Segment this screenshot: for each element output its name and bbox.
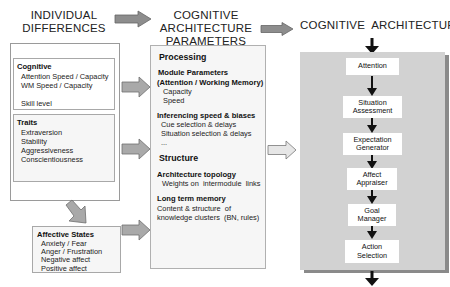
cognitive-item: Attention Speed / Capacity bbox=[17, 72, 114, 81]
module-affect-appraiser: Affect Appraiser bbox=[347, 168, 397, 190]
inferencing-item: Situation selection & delays bbox=[159, 129, 265, 138]
module-label: Selection bbox=[357, 252, 387, 261]
inferencing-item: Cue selection & delays bbox=[159, 120, 265, 129]
heading-cognitive-architecture: COGNITIVE ARCHITECTURE bbox=[300, 19, 450, 32]
arrow-right-icon bbox=[121, 76, 151, 98]
long-term-memory-title: Long term memory bbox=[157, 194, 265, 204]
flow-arrow-down-icon bbox=[364, 271, 380, 287]
module-goal-manager: Goal Manager bbox=[348, 204, 396, 226]
flow-arrow-down-icon bbox=[367, 226, 377, 239]
module-expectation-generator: Expectation Generator bbox=[343, 133, 402, 155]
module-label: Appraiser bbox=[356, 179, 387, 188]
long-term-memory-item: knowledge clusters (BN, rules) bbox=[157, 213, 265, 222]
module-label: Manager bbox=[358, 215, 387, 224]
inferencing-title: Inferencing speed & biases bbox=[157, 111, 265, 121]
heading-line: ARCHITECTURE bbox=[156, 22, 256, 35]
module-parameter-item: Speed bbox=[159, 96, 265, 105]
arrow-right-icon bbox=[267, 140, 297, 160]
cognitive-spacer bbox=[17, 90, 114, 99]
affective-item: Positive affect bbox=[37, 265, 120, 273]
inferencing-item: ... bbox=[159, 139, 265, 146]
architecture-topology-item: Weights on intermodule links bbox=[159, 179, 265, 188]
module-action-selection: Action Selection bbox=[345, 240, 399, 263]
heading-line: DIFFERENCES bbox=[18, 22, 110, 35]
cognitive-box: Cognitive Attention Speed / Capacity WM … bbox=[13, 58, 115, 110]
module-situation-assessment: Situation Assessment bbox=[343, 96, 402, 118]
flow-arrow-down-icon bbox=[367, 155, 377, 169]
flow-arrow-down-icon bbox=[367, 190, 377, 204]
long-term-memory-item: Content & structure of bbox=[157, 204, 265, 213]
cognitive-item: WM Speed / Capacity bbox=[17, 81, 114, 90]
module-label: Assessment bbox=[353, 107, 393, 116]
traits-item: Stability bbox=[17, 137, 114, 146]
traits-item: Conscientiousness bbox=[17, 155, 114, 164]
heading-cognitive-architecture-parameters: COGNITIVE ARCHITECTURE PARAMETERS bbox=[156, 9, 256, 48]
module-label: Generator bbox=[356, 144, 389, 153]
module-label: Attention bbox=[358, 62, 387, 71]
arrow-down-icon bbox=[64, 199, 88, 225]
cognitive-item: Skill level bbox=[17, 99, 114, 108]
flow-arrow-down-icon bbox=[367, 118, 377, 133]
module-parameter-item: Capacity bbox=[159, 87, 265, 96]
heading-individual-differences: INDIVIDUAL DIFFERENCES bbox=[18, 9, 110, 35]
traits-item: Extraversion bbox=[17, 128, 114, 137]
affective-states-box: Affective States Anxiety / Fear Anger / … bbox=[32, 226, 121, 273]
traits-box: Traits Extraversion Stability Aggressive… bbox=[13, 114, 115, 182]
structure-title: Structure bbox=[159, 153, 265, 163]
parameters-box: Processing Module Parameters (Attention … bbox=[150, 45, 266, 269]
module-parameters-subtitle: (Attention / Working Memory) bbox=[157, 78, 265, 88]
traits-title: Traits bbox=[17, 118, 114, 128]
arrow-right-icon bbox=[121, 138, 151, 160]
arrow-right-icon bbox=[260, 22, 294, 36]
architecture-topology-title: Architecture topology bbox=[157, 170, 265, 180]
traits-item: Aggressiveness bbox=[17, 146, 114, 155]
module-parameters-title: Module Parameters bbox=[158, 68, 265, 78]
flow-arrow-down-icon bbox=[367, 76, 377, 96]
arrow-right-icon bbox=[121, 219, 151, 241]
heading-line: INDIVIDUAL bbox=[18, 9, 110, 22]
module-attention: Attention bbox=[346, 58, 399, 75]
arrow-right-icon bbox=[114, 10, 152, 28]
processing-title: Processing bbox=[159, 52, 265, 62]
cognitive-title: Cognitive bbox=[17, 62, 114, 72]
heading-line: COGNITIVE bbox=[156, 9, 256, 22]
